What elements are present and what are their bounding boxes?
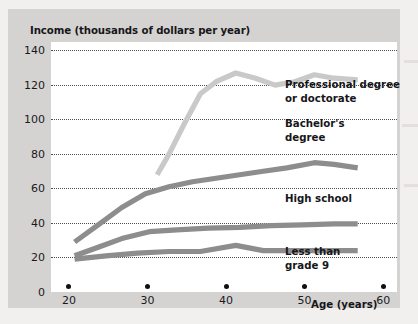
x-tick-dot-30 (145, 284, 150, 289)
scan-artifact (404, 60, 418, 63)
chart-page: Income (thousands of dollars per year) (0, 0, 418, 324)
y-tick-label-100: 100 (11, 113, 45, 126)
scan-artifact (402, 124, 418, 127)
x-tick-dot-60 (381, 284, 386, 289)
series-label-professional-degree: Professional degree or doctorate (285, 78, 400, 105)
scan-artifact (404, 184, 418, 187)
y-tick-label-140: 140 (11, 44, 45, 57)
series-label-bachelors-degree: Bachelor's degree (285, 117, 345, 144)
y-axis-title: Income (thousands of dollars per year) (30, 25, 250, 36)
y-tick-label-80: 80 (11, 148, 45, 161)
figure-panel: Income (thousands of dollars per year) (8, 9, 400, 308)
y-tick-label-120: 120 (11, 79, 45, 92)
x-axis-title: Age (years) (311, 299, 377, 310)
x-tick-label-20: 20 (54, 294, 84, 307)
series-label-high-school: High school (285, 192, 352, 206)
x-tick-label-30: 30 (133, 294, 163, 307)
y-tick-label-60: 60 (11, 182, 45, 195)
y-tick-label-0: 0 (11, 286, 45, 299)
series-label-less-than-grade9: Less than grade 9 (285, 245, 340, 272)
x-tick-dot-40 (224, 284, 229, 289)
x-tick-label-40: 40 (211, 294, 241, 307)
y-tick-label-40: 40 (11, 217, 45, 230)
y-tick-label-20: 20 (11, 251, 45, 264)
